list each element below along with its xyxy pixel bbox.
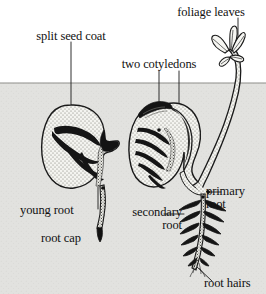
label-root-cap: root cap — [41, 232, 81, 246]
diagram-canvas — [0, 0, 266, 294]
right-cotyledon-marker-dot — [157, 128, 161, 132]
left-root-marker-dot — [101, 186, 105, 190]
label-young-root: young root — [20, 204, 74, 218]
label-secondary-root-line2: root — [82, 219, 182, 233]
label-root-hairs: root hairs — [204, 277, 251, 291]
primary-root-marker-dot — [201, 195, 204, 198]
label-split-seed-coat: split seed coat — [14, 30, 128, 44]
label-primary-root-line2: root — [206, 198, 226, 212]
germination-diagram: foliage leaves split seed coat two cotyl… — [0, 0, 266, 294]
label-foliage-leaves: foliage leaves — [158, 6, 264, 20]
label-two-cotyledons: two cotyledons — [106, 58, 212, 72]
